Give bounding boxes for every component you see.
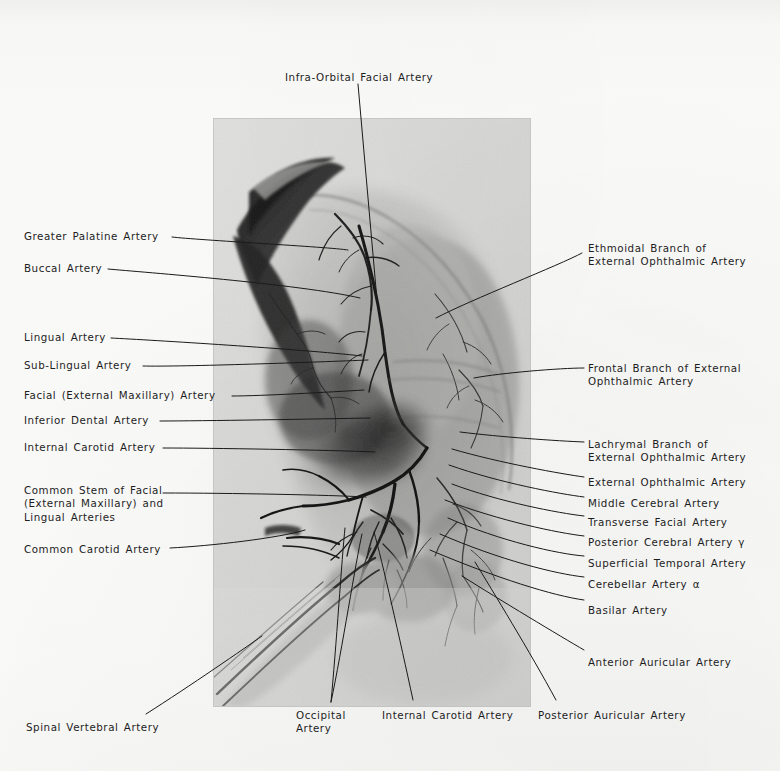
label-occipital-artery: Occipital Artery <box>296 709 346 736</box>
label-posterior-auricular-artery: Posterior Auricular Artery <box>538 709 686 722</box>
label-buccal-artery: Buccal Artery <box>24 262 102 275</box>
label-cerebellar-artery-alpha: Cerebellar Artery α <box>588 578 700 591</box>
label-middle-cerebral-artery: Middle Cerebral Artery <box>588 497 720 510</box>
label-internal-carotid-artery-left: Internal Carotid Artery <box>24 441 155 454</box>
label-transverse-facial-artery: Transverse Facial Artery <box>588 516 727 529</box>
label-internal-carotid-artery-bottom: Internal Carotid Artery <box>382 709 513 722</box>
label-basilar-artery: Basilar Artery <box>588 604 668 617</box>
label-superficial-temporal-artery: Superficial Temporal Artery <box>588 557 746 570</box>
label-greater-palatine-artery: Greater Palatine Artery <box>24 230 159 243</box>
figure-page: Infra-Orbital Facial ArteryGreater Palat… <box>0 0 780 771</box>
label-spinal-vertebral-artery: Spinal Vertebral Artery <box>26 721 159 734</box>
label-facial-external-maxillary-artery: Facial (External Maxillary) Artery <box>24 389 216 402</box>
label-sub-lingual-artery: Sub-Lingual Artery <box>24 359 131 372</box>
label-frontal-branch-external-ophthalmic-artery: Frontal Branch of External Ophthalmic Ar… <box>588 362 741 389</box>
label-ethmoidal-branch-external-ophthalmic-artery: Ethmoidal Branch of External Ophthalmic … <box>588 242 746 269</box>
angiogram-plate <box>213 118 531 707</box>
label-common-stem-facial-lingual: Common Stem of Facial (External Maxillar… <box>24 484 164 524</box>
label-inferior-dental-artery: Inferior Dental Artery <box>24 414 149 427</box>
label-lingual-artery: Lingual Artery <box>24 331 106 344</box>
label-lachrymal-branch-external-ophthalmic-artery: Lachrymal Branch of External Ophthalmic … <box>588 438 746 465</box>
label-external-ophthalmic-artery: External Ophthalmic Artery <box>588 476 746 489</box>
label-infra-orbital-facial-artery: Infra-Orbital Facial Artery <box>285 71 433 84</box>
label-posterior-cerebral-artery-gamma: Posterior Cerebral Artery γ <box>588 536 745 549</box>
label-anterior-auricular-artery: Anterior Auricular Artery <box>588 656 731 669</box>
label-common-carotid-artery: Common Carotid Artery <box>24 543 161 556</box>
